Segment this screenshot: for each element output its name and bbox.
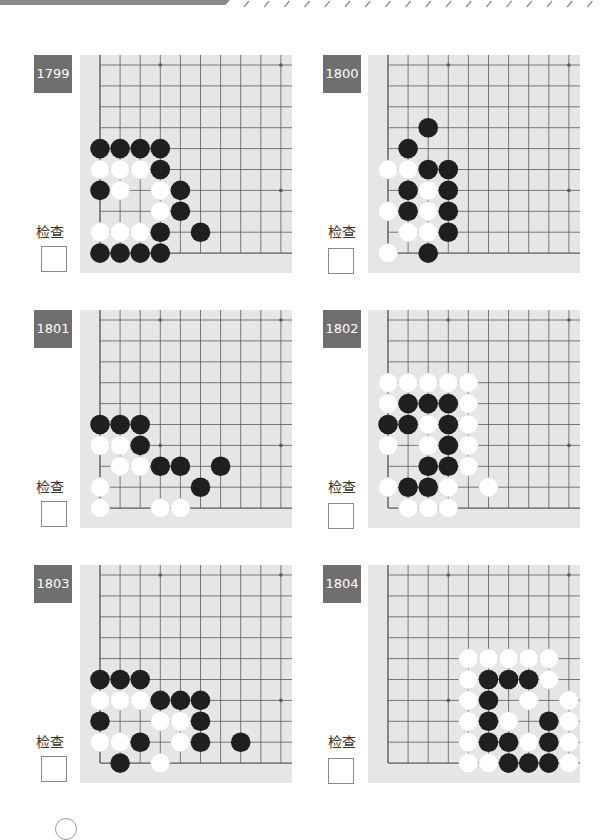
problem-1801: 1801 检查 <box>34 310 324 540</box>
check-box[interactable] <box>41 246 67 272</box>
white-stone <box>171 712 190 731</box>
black-stone <box>418 457 438 477</box>
white-stone <box>151 181 170 200</box>
white-stone <box>419 223 438 242</box>
black-stone <box>418 118 438 138</box>
white-stone <box>419 436 438 455</box>
white-stone <box>399 160 418 179</box>
white-stone <box>90 223 109 242</box>
white-stone <box>439 499 458 518</box>
black-stone <box>418 477 438 497</box>
star-point-icon <box>567 189 571 193</box>
white-stone <box>439 478 458 497</box>
black-stone <box>519 670 539 690</box>
white-stone <box>459 733 478 752</box>
white-stone <box>559 733 578 752</box>
white-stone <box>378 478 397 497</box>
problem-number-badge: 1802 <box>323 310 361 348</box>
black-stone <box>110 415 130 435</box>
check-box[interactable] <box>41 756 67 782</box>
go-board <box>368 310 580 528</box>
black-stone <box>398 394 418 414</box>
black-stone <box>151 160 171 180</box>
check-label: 检查 <box>328 221 356 241</box>
white-stone <box>378 244 397 263</box>
black-stone <box>151 139 171 159</box>
black-stone <box>499 753 519 773</box>
white-stone <box>111 181 130 200</box>
white-stone <box>459 373 478 392</box>
white-stone <box>399 223 418 242</box>
black-stone <box>90 670 110 690</box>
black-stone <box>439 436 459 456</box>
black-stone <box>90 181 110 201</box>
white-stone <box>419 499 438 518</box>
go-board <box>80 55 292 273</box>
star-point-icon <box>567 573 571 577</box>
white-stone <box>171 499 190 518</box>
black-stone <box>191 691 211 711</box>
white-stone <box>90 160 109 179</box>
white-stone <box>459 712 478 731</box>
black-stone <box>151 691 171 711</box>
white-stone <box>439 373 458 392</box>
check-label: 检查 <box>36 731 64 751</box>
check-box[interactable] <box>328 503 354 529</box>
white-stone <box>111 457 130 476</box>
black-stone <box>539 753 559 773</box>
star-point-icon <box>279 63 283 67</box>
white-stone <box>459 691 478 710</box>
black-stone <box>191 477 211 497</box>
white-stone <box>499 712 518 731</box>
white-stone <box>539 670 558 689</box>
black-stone <box>151 243 171 263</box>
star-point-icon <box>279 318 283 322</box>
check-label: 检查 <box>328 731 356 751</box>
white-stone <box>90 436 109 455</box>
black-stone <box>398 477 418 497</box>
black-stone <box>171 181 191 201</box>
black-stone <box>479 712 499 732</box>
white-stone <box>111 733 130 752</box>
black-stone <box>130 415 150 435</box>
page-marker-circle-icon <box>55 818 77 840</box>
black-stone <box>378 415 398 435</box>
problem-1799: 1799 检查 <box>34 55 324 285</box>
white-stone <box>111 223 130 242</box>
white-stone <box>419 415 438 434</box>
black-stone <box>171 691 191 711</box>
black-stone <box>90 243 110 263</box>
white-stone <box>559 691 578 710</box>
black-stone <box>130 436 150 456</box>
black-stone <box>479 670 499 690</box>
check-box[interactable] <box>328 758 354 784</box>
white-stone <box>378 394 397 413</box>
white-stone <box>519 733 538 752</box>
black-stone <box>439 181 459 201</box>
black-stone <box>398 181 418 201</box>
problem-number-badge: 1799 <box>34 55 72 93</box>
problem-number-badge: 1804 <box>323 565 361 603</box>
black-stone <box>110 243 130 263</box>
check-box[interactable] <box>328 248 354 274</box>
star-point-icon <box>159 444 163 448</box>
black-stone <box>211 457 231 477</box>
black-stone <box>130 670 150 690</box>
white-stone <box>378 160 397 179</box>
black-stone <box>398 415 418 435</box>
star-point-icon <box>279 189 283 193</box>
problem-1800: 1800 检查 <box>323 55 606 285</box>
black-stone <box>418 394 438 414</box>
white-stone <box>90 733 109 752</box>
white-stone <box>459 670 478 689</box>
black-stone <box>130 243 150 263</box>
white-stone <box>378 202 397 221</box>
star-point-icon <box>279 444 283 448</box>
white-stone <box>131 457 150 476</box>
white-stone <box>151 712 170 731</box>
black-stone <box>398 202 418 222</box>
black-stone <box>439 160 459 180</box>
star-point-icon <box>447 699 451 703</box>
check-box[interactable] <box>41 501 67 527</box>
black-stone <box>479 732 499 752</box>
